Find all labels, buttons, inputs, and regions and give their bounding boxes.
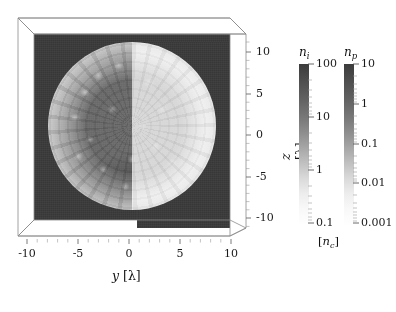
colorbar-ion-tick-0: 100 bbox=[316, 57, 337, 70]
colorbar-ion-tick-3: 0.1 bbox=[316, 216, 334, 229]
figure-root: -10 -5 0 5 10 10 5 0 -5 -10 y [λ] z [λ] … bbox=[0, 0, 396, 312]
z-axis-label-var: z bbox=[278, 153, 293, 160]
colorbar-unit-label: [nc] bbox=[318, 234, 339, 250]
colorbar-proton-tick-2: 0.1 bbox=[361, 137, 379, 150]
y-tick-label-0: -10 bbox=[7, 247, 47, 260]
colorbar-unit-close: ] bbox=[334, 234, 339, 248]
colorbar-unit-var: n bbox=[323, 234, 330, 248]
y-tick-label-1: -5 bbox=[58, 247, 98, 260]
colorbar-proton-tick-3: 0.01 bbox=[361, 176, 386, 189]
colorbar-ion-title-sub: i bbox=[307, 51, 310, 61]
colorbar-ion-tick-1: 10 bbox=[316, 110, 330, 123]
colorbar-ion-tick-2: 1 bbox=[316, 163, 323, 176]
y-tick-label-3: 5 bbox=[160, 247, 200, 260]
y-tick-label-4: 10 bbox=[211, 247, 251, 260]
colorbar-proton-tick-1: 1 bbox=[361, 97, 368, 110]
colorbar-proton-tick-0: 10 bbox=[361, 57, 375, 70]
y-axis-label: y [λ] bbox=[112, 268, 141, 283]
z-tick-label-3: -5 bbox=[256, 170, 267, 183]
z-tick-label-0: 10 bbox=[256, 45, 270, 58]
z-tick-label-2: 0 bbox=[256, 128, 263, 141]
colorbar-ion-title-var: n bbox=[299, 45, 307, 59]
colorbar-proton-title-sub: p bbox=[352, 51, 357, 61]
z-tick-label-1: 5 bbox=[256, 87, 263, 100]
colorbar-proton-tick-4: 0.001 bbox=[361, 216, 393, 229]
y-tick-label-2: 0 bbox=[109, 247, 149, 260]
y-axis-label-var: y bbox=[112, 268, 119, 283]
colorbar-proton-title: np bbox=[344, 45, 357, 61]
z-tick-label-4: -10 bbox=[256, 211, 274, 224]
y-axis-label-unit: [λ] bbox=[123, 268, 141, 283]
axes-3d: -10 -5 0 5 10 10 5 0 -5 -10 y [λ] z [λ] bbox=[0, 0, 280, 290]
colorbar-ion-ticks bbox=[308, 62, 318, 230]
colorbar-ion-title: ni bbox=[299, 45, 309, 61]
colorbar-proton-title-var: n bbox=[344, 45, 352, 59]
